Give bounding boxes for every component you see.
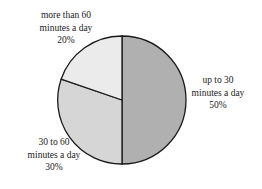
pie-label-30-to-60-value: 30% bbox=[2, 161, 106, 174]
pie-chart-figure: more than 60 minutes a day 20% up to 30 … bbox=[0, 0, 262, 189]
pie-label-more-than-60: more than 60 minutes a day 20% bbox=[14, 9, 118, 47]
pie-label-30-to-60-line1: 30 to 60 bbox=[2, 136, 106, 149]
pie-label-more-than-60-value: 20% bbox=[14, 34, 118, 47]
pie-label-up-to-30-line1: up to 30 bbox=[176, 74, 260, 87]
pie-label-30-to-60: 30 to 60 minutes a day 30% bbox=[2, 136, 106, 174]
pie-label-up-to-30-value: 50% bbox=[176, 99, 260, 112]
pie-label-up-to-30: up to 30 minutes a day 50% bbox=[176, 74, 260, 112]
pie-label-30-to-60-line2: minutes a day bbox=[2, 149, 106, 162]
pie-label-up-to-30-line2: minutes a day bbox=[176, 87, 260, 100]
pie-label-more-than-60-line1: more than 60 bbox=[14, 9, 118, 22]
pie-label-more-than-60-line2: minutes a day bbox=[14, 22, 118, 35]
